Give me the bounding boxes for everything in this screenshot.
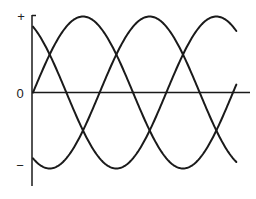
zero-label: 0	[16, 87, 23, 100]
three-phase-waveform-diagram	[0, 0, 256, 199]
plus-label: +	[17, 10, 25, 23]
minus-label: −	[16, 159, 24, 172]
